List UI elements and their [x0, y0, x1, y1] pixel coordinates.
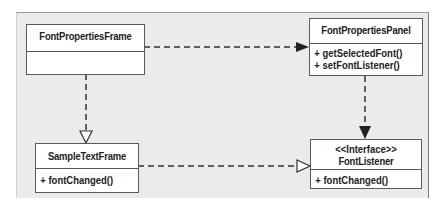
dependency-fpf-to-fpp	[144, 42, 309, 52]
class-font-properties-panel[interactable]: FontPropertiesPanel + getSelectedFont() …	[309, 18, 423, 76]
class-font-properties-frame[interactable]: FontPropertiesFrame	[26, 24, 145, 75]
class-name: FontPropertiesFrame	[35, 25, 136, 51]
class-stereotype: <<Interface>>	[319, 140, 414, 155]
class-divider: + fontChanged()	[311, 169, 421, 186]
operation: + setFontListener()	[310, 59, 406, 71]
class-divider: + getSelectedFont() + setFontListener()	[310, 43, 422, 71]
class-divider: + fontChanged()	[36, 168, 138, 186]
hollow-triangle-arrowhead-icon	[80, 131, 92, 143]
filled-arrowhead-icon	[359, 126, 371, 139]
dependency-fpp-to-fl	[359, 76, 371, 139]
operation: + fontChanged()	[311, 174, 406, 186]
operation: + fontChanged()	[36, 174, 124, 186]
class-name: FontListener	[319, 155, 414, 169]
filled-arrowhead-icon	[296, 42, 309, 52]
hollow-triangle-arrowhead-icon	[297, 160, 310, 172]
class-sample-text-frame[interactable]: SampleTextFrame + fontChanged()	[35, 143, 139, 193]
operation: + getSelectedFont()	[310, 47, 406, 59]
class-font-listener-interface[interactable]: <<Interface>> FontListener + fontChanged…	[310, 139, 422, 189]
realization-stf-to-fl	[138, 160, 310, 172]
class-divider	[27, 51, 144, 52]
class-name: SampleTextFrame	[43, 144, 131, 168]
realization-fpf-to-stf	[80, 74, 92, 143]
class-name: FontPropertiesPanel	[318, 19, 414, 43]
